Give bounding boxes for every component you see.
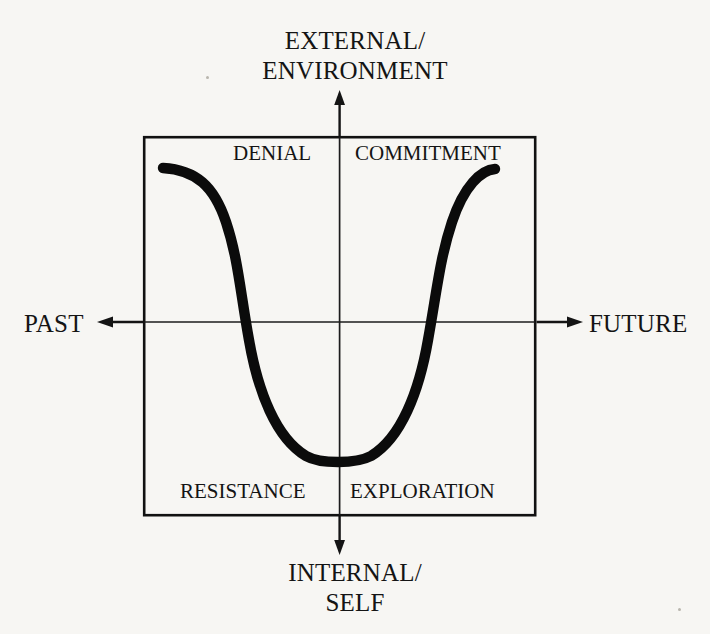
change-curve-path — [163, 168, 495, 462]
scan-speck — [678, 608, 681, 611]
axis-label-bottom-line2: SELF — [0, 588, 710, 618]
axis-label-right: FUTURE — [589, 309, 687, 339]
axis-label-top-line2: ENVIRONMENT — [0, 56, 710, 86]
quadrant-label-denial: DENIAL — [233, 141, 311, 166]
right-arrow-icon — [537, 316, 584, 327]
axis-label-left: PAST — [24, 309, 84, 339]
scan-speck — [206, 76, 209, 79]
left-arrow-icon — [97, 316, 143, 327]
axis-label-top: EXTERNAL/ ENVIRONMENT — [0, 26, 710, 85]
quadrant-label-resistance: RESISTANCE — [180, 479, 306, 504]
up-arrow-icon — [334, 90, 345, 136]
axis-label-bottom: INTERNAL/ SELF — [0, 558, 710, 617]
axis-label-top-line1: EXTERNAL/ — [0, 26, 710, 56]
axis-label-bottom-line1: INTERNAL/ — [0, 558, 710, 588]
diagram-canvas: EXTERNAL/ ENVIRONMENT INTERNAL/ SELF PAS… — [0, 0, 710, 634]
down-arrow-icon — [334, 516, 345, 555]
quadrant-label-exploration: EXPLORATION — [350, 479, 495, 504]
quadrant-label-commitment: COMMITMENT — [355, 141, 501, 166]
